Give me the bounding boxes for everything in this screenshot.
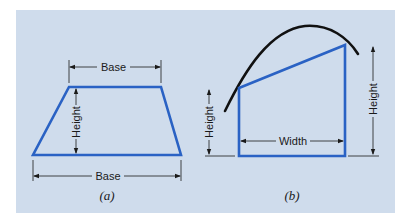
left-height-label: Height xyxy=(203,106,215,138)
caption-b: (b) xyxy=(284,188,299,203)
right-height-dimension: Height xyxy=(348,47,379,156)
panel-b: Height Width Height (b) xyxy=(203,26,379,203)
trapezoid-a xyxy=(33,87,181,155)
panel-a: Base Height Base (a) xyxy=(33,60,181,203)
height-dimension-a: Height xyxy=(70,89,82,153)
function-curve xyxy=(225,26,358,111)
height-label-a: Height xyxy=(70,106,82,138)
width-label: Width xyxy=(279,135,307,147)
bottom-base-dimension: Base xyxy=(33,160,181,182)
figure-drawing: Base Height Base (a) xyxy=(0,0,415,224)
width-dimension: Width xyxy=(241,135,343,147)
top-base-dimension: Base xyxy=(69,60,161,83)
top-base-label: Base xyxy=(101,61,126,73)
caption-a: (a) xyxy=(99,188,114,203)
bottom-base-label: Base xyxy=(95,170,120,182)
trapezoid-figure: Base Height Base (a) xyxy=(0,0,415,224)
right-height-label: Height xyxy=(367,83,379,115)
